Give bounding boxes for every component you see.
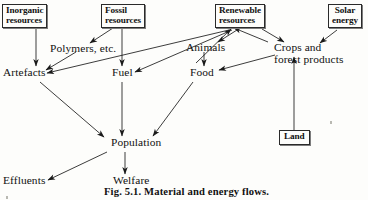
edge-artefacts-to-population: [40, 82, 104, 137]
node-land[interactable]: Land: [279, 130, 310, 145]
node-fossil-resources-line1: Fossil: [105, 5, 127, 15]
node-fuel[interactable]: Fuel: [112, 67, 133, 79]
edge-crops-to-food: [219, 55, 275, 70]
scan-speck: [6, 196, 8, 199]
node-polymers-label: Polymers, etc.: [50, 42, 116, 54]
edge-crops-to-renewable: [234, 28, 268, 42]
node-solar-energy[interactable]: Solar energy: [328, 4, 362, 28]
edge-food-to-population: [153, 82, 193, 136]
node-inorganic-resources[interactable]: Inorganic resources: [2, 4, 47, 28]
node-polymers[interactable]: Polymers, etc.: [50, 43, 116, 55]
node-crops-line2: forest products: [274, 54, 344, 66]
figure-caption: Fig. 5.1. Material and energy flows.: [104, 186, 269, 197]
scan-speck: [330, 121, 332, 124]
node-food-label: Food: [190, 66, 214, 78]
node-animals[interactable]: Animals: [186, 42, 225, 54]
node-welfare-label: Welfare: [113, 174, 149, 186]
node-renewable-resources-line1: Renewable: [219, 5, 261, 15]
node-effluents-label: Effluents: [3, 174, 45, 186]
node-population[interactable]: Population: [111, 137, 161, 149]
node-solar-energy-line2: energy: [332, 16, 358, 26]
node-renewable-resources[interactable]: Renewable resources: [215, 4, 265, 28]
node-crops-and-forest-products[interactable]: Crops and forest products: [274, 42, 344, 66]
node-artefacts-label: Artefacts: [3, 66, 46, 78]
node-food[interactable]: Food: [190, 67, 214, 79]
node-land-line1: Land: [284, 131, 305, 141]
node-inorganic-resources-line2: resources: [6, 16, 43, 26]
node-fuel-label: Fuel: [112, 66, 133, 78]
edge-population-to-effluents: [48, 152, 107, 180]
figure-material-and-energy-flows: Inorganic resources Fossil resources Ren…: [0, 0, 368, 200]
node-solar-energy-line1: Solar: [335, 5, 355, 15]
node-fossil-resources-line2: resources: [105, 16, 141, 26]
node-artefacts[interactable]: Artefacts: [3, 67, 46, 79]
node-crops-line1: Crops and: [274, 41, 321, 53]
node-animals-label: Animals: [186, 41, 225, 53]
node-renewable-resources-line2: resources: [219, 16, 261, 26]
node-effluents[interactable]: Effluents: [3, 175, 45, 187]
node-population-label: Population: [111, 136, 161, 148]
node-inorganic-resources-line1: Inorganic: [6, 5, 43, 15]
node-fossil-resources[interactable]: Fossil resources: [101, 4, 145, 28]
edge-fossil-to-polymers: [90, 28, 113, 43]
arrow-layer: [0, 0, 368, 200]
